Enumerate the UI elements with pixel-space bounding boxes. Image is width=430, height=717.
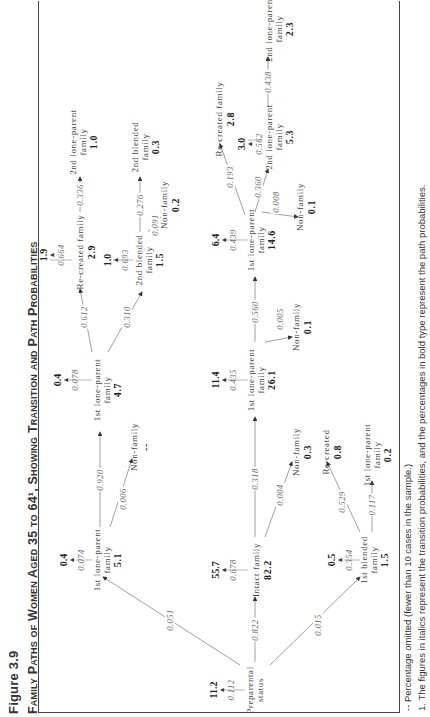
node-intact-family: Intact family82.2	[252, 543, 272, 597]
node-1st-lone-parent-a: 1st lone-parentfamily5.1	[93, 529, 123, 592]
prob-lone1c-lone1d: 0.560	[250, 300, 260, 324]
prob-lone1c-nonfam: 0.005	[275, 307, 285, 331]
footnote-1: 1. The figures in italics represent the …	[416, 185, 427, 711]
node-non-family-c: Non-family0.3	[292, 428, 312, 476]
stay-lone1b: 0.4▲0.078	[52, 369, 80, 391]
node-1st-blended-family: 1st blendedfamily1.5	[360, 536, 390, 584]
prob-lone1d-lone2: 0.360	[253, 175, 263, 199]
stay-lone2b: 3.0▲0.562	[236, 133, 264, 155]
prob-intact-lone1: 0.318	[250, 467, 260, 491]
stay-blended2-a: 1.0▲0.693	[102, 249, 130, 271]
stay-blended1: 0.5▲0.354	[326, 549, 354, 571]
node-1st-lone-parent-e: 1st lone-parentfamily0.2	[363, 424, 393, 487]
prob-lone1b-blended2: 0.310	[122, 305, 132, 329]
document-page: Figure 3.9 Family Paths of Women Aged 35…	[0, 0, 430, 717]
prob-lone1d-nonfam: 0.008	[271, 190, 281, 214]
stay-lone1d: 6.4▲0.439	[210, 229, 238, 251]
footnote-dash: -- Percentage omitted (fewer than 10 cas…	[402, 464, 413, 711]
node-non-family-d: Non-family0.1	[292, 303, 312, 351]
prob-lone1b-recreated: 0.612	[79, 305, 89, 329]
prob-lone1a-nonfam: 0.006	[118, 487, 128, 511]
node-non-family-b: Non-family0.2	[160, 181, 180, 229]
prob-prep-lone1a: 0.051	[165, 608, 175, 632]
node-2nd-lone-parent-c: 2nd lone-parentfamily2.3	[265, 0, 295, 62]
node-2nd-blended-family-b: 2nd blendedfamily0.3	[131, 122, 161, 173]
node-2nd-lone-parent-a: 2nd lone-parentfamily1.0	[69, 109, 99, 175]
node-preparental-status: Preparentalstatus	[246, 666, 265, 714]
prob-intact-nonfam: 0.004	[275, 483, 285, 507]
node-2nd-lone-parent-b: 2nd lone-parentfamily5.3	[265, 104, 295, 170]
prob-blended1-recreated: 0.529	[337, 490, 347, 514]
stay-preparental: 11.2▲0.112	[208, 680, 236, 701]
prob-prep-intact: 0.822	[250, 618, 260, 642]
node-re-created-family-a: Re-created family2.9	[76, 215, 96, 290]
node-1st-lone-parent-d: 1st lone-parentfamily14.6	[247, 209, 277, 272]
prob-blended2-blended2: 0.276	[135, 193, 145, 217]
prob-lone1d-recreated: 0.193	[225, 165, 235, 189]
node-2nd-blended-family-a: 2nd blendedfamily1.5	[135, 235, 165, 286]
prob-prep-blended1: 0.015	[313, 613, 323, 637]
stay-recreated-a: 1.9▲0.664	[38, 244, 66, 266]
arrow-up-icon: ▲	[219, 680, 226, 701]
node-re-created-family-b: Re-created family2.8	[215, 82, 235, 157]
node-non-family-e: Non-family0.1	[296, 183, 316, 231]
node-1st-lone-parent-c: 1st lone-parentfamily26.1	[247, 349, 277, 412]
stay-intact: 55.7▲0.678	[210, 559, 238, 581]
stay-lone1a: 0.4▲0.074	[58, 549, 86, 571]
edge-lone1c-nonfam	[265, 337, 292, 342]
node-non-family-a: Non-family--	[130, 423, 150, 471]
prob-lone2b-lone2c: 0.438	[263, 70, 273, 94]
node-1st-lone-parent-b: 1st lone-parentfamily4.7	[93, 359, 123, 422]
prob-recreated-lone2: 0.336	[75, 183, 85, 207]
stay-lone1c: 11.4▲0.435	[210, 369, 238, 391]
node-re-created-c: Re-created0.8	[322, 430, 342, 475]
prob-lone1a-lone1b: 0.920	[95, 468, 105, 492]
prob-blended1-lone1: 0.117	[367, 494, 377, 517]
